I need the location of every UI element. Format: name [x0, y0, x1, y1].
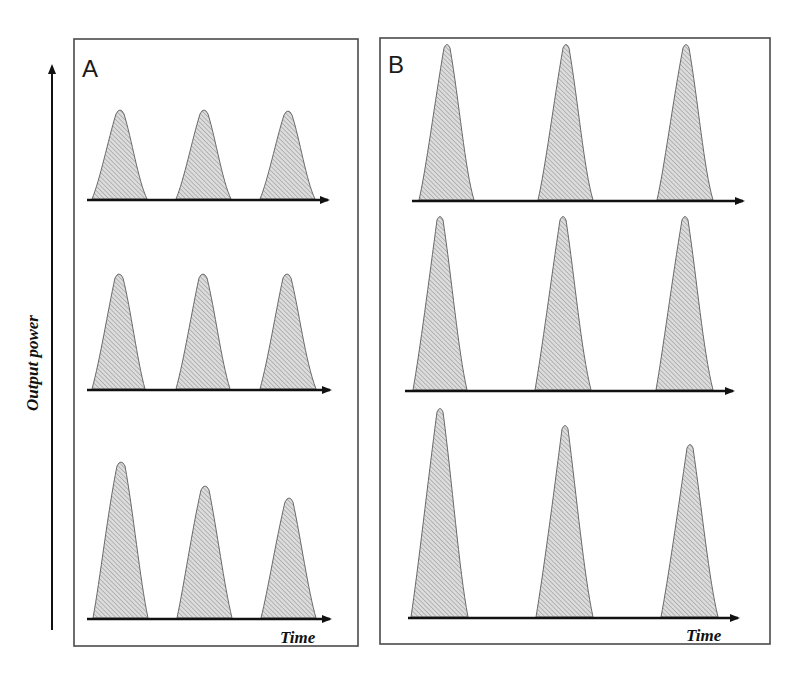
pulse: [260, 111, 315, 199]
pulse: [419, 45, 474, 201]
panel-b-row-3: [408, 409, 738, 619]
pulse: [657, 45, 713, 201]
panel-a-row-3: [87, 462, 330, 619]
panel-a-row-1: [87, 110, 328, 200]
pulse: [92, 110, 147, 199]
pulse: [260, 274, 316, 389]
panel-b-row-2: [405, 217, 733, 392]
pulse: [93, 462, 148, 618]
y-axis: Output power: [23, 66, 52, 630]
pulse: [176, 274, 230, 389]
pulse: [176, 110, 231, 199]
pulse: [413, 217, 467, 391]
panel-b-label: B: [388, 51, 404, 78]
pulse: [177, 486, 232, 618]
pulse-train-diagram: Output power A Time B: [0, 0, 797, 677]
panel-b: B Time: [380, 38, 770, 645]
x-axis-label-a: Time: [280, 628, 316, 647]
pulse: [538, 45, 593, 201]
pulse: [535, 217, 591, 391]
pulse: [261, 498, 316, 618]
pulse: [411, 409, 468, 618]
x-axis-label-b: Time: [686, 626, 722, 645]
panel-a: A Time: [74, 39, 358, 647]
pulse: [661, 445, 718, 618]
panel-a-label: A: [82, 55, 98, 82]
pulse: [92, 274, 145, 389]
y-axis-label: Output power: [23, 315, 42, 411]
pulse: [656, 217, 713, 391]
pulse: [536, 426, 593, 618]
panel-b-row-1: [412, 45, 743, 202]
panel-a-row-2: [87, 274, 330, 390]
